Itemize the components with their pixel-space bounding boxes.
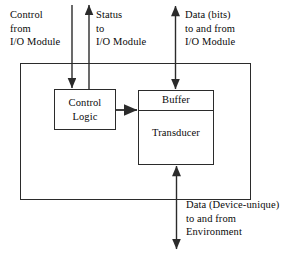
transducer-label: Transducer	[138, 126, 214, 140]
label-control-from-io-module: Control from I/O Module	[10, 8, 60, 49]
label-status-to-io-module: Status to I/O Module	[96, 8, 146, 49]
outer-boundary-box	[21, 64, 251, 200]
label-data-bits-to-and-from-io-module: Data (bits) to and from I/O Module	[185, 8, 235, 49]
buffer-label: Buffer	[138, 93, 214, 107]
label-data-device-unique-to-and-from-environment: Data (Device-unique) to and from Environ…	[186, 198, 279, 239]
control-logic-label: Control Logic	[54, 96, 116, 123]
diagram-canvas: Control from I/O Module Status to I/O Mo…	[0, 0, 296, 256]
